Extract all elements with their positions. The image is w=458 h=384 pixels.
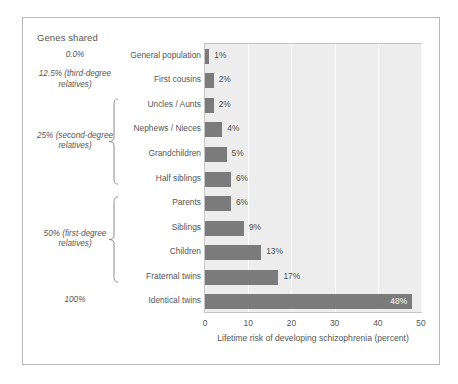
bar — [205, 270, 278, 285]
x-tick-label: 20 — [280, 318, 302, 328]
gridline — [421, 44, 422, 312]
category-label: Siblings — [41, 222, 201, 232]
bar-value-label: 1% — [214, 50, 226, 60]
bar-row: 6% — [205, 196, 421, 211]
bar — [205, 98, 214, 113]
plot-area: 1%2%2%4%5%6%6%9%13%17%48% — [204, 43, 422, 313]
category-label: Fraternal twins — [41, 271, 201, 281]
bar-row: 2% — [205, 73, 421, 88]
category-label: Identical twins — [41, 295, 201, 305]
bar-row: 48% — [205, 294, 421, 309]
bar-row: 4% — [205, 122, 421, 137]
bar — [205, 147, 227, 162]
bar-value-label: 17% — [283, 271, 300, 281]
x-axis-title: Lifetime risk of developing schizophreni… — [204, 333, 422, 343]
category-label-column: General populationFirst cousinsUncles / … — [41, 18, 201, 364]
category-label: First cousins — [41, 74, 201, 84]
bar-value-label: 9% — [249, 222, 261, 232]
x-tick-label: 30 — [324, 318, 346, 328]
bar-value-label: 48% — [390, 296, 407, 306]
bar-row: 9% — [205, 221, 421, 236]
x-tick-label: 50 — [410, 318, 432, 328]
category-label: Uncles / Aunts — [41, 99, 201, 109]
x-tick-label: 40 — [367, 318, 389, 328]
category-label: Parents — [41, 197, 201, 207]
chart-figure: Genes shared 0.0%12.5% (third-degree rel… — [22, 17, 440, 365]
bar — [205, 172, 231, 187]
bar-row: 13% — [205, 245, 421, 260]
bar-row: 2% — [205, 98, 421, 113]
category-label: General population — [41, 50, 201, 60]
bar-row: 17% — [205, 270, 421, 285]
category-label: Nephews / Nieces — [41, 123, 201, 133]
bar-value-label: 5% — [232, 148, 244, 158]
x-tick-label: 0 — [194, 318, 216, 328]
bar-value-label: 6% — [236, 173, 248, 183]
x-tick-label: 10 — [237, 318, 259, 328]
bar — [205, 73, 214, 88]
bar — [205, 294, 412, 309]
bar — [205, 245, 261, 260]
bar-row: 5% — [205, 147, 421, 162]
bar-row: 6% — [205, 172, 421, 187]
category-label: Children — [41, 246, 201, 256]
bar — [205, 196, 231, 211]
category-label: Half siblings — [41, 173, 201, 183]
bar-value-label: 2% — [219, 74, 231, 84]
bar-value-label: 13% — [266, 246, 283, 256]
bar-value-label: 4% — [227, 123, 239, 133]
bar — [205, 49, 209, 64]
bar-value-label: 2% — [219, 99, 231, 109]
bar-value-label: 6% — [236, 197, 248, 207]
category-label: Grandchildren — [41, 148, 201, 158]
bar — [205, 122, 222, 137]
bar — [205, 221, 244, 236]
bar-row: 1% — [205, 49, 421, 64]
